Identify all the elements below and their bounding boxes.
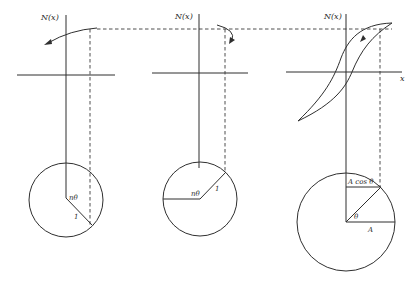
panel-3-axis-label: N(x) xyxy=(323,12,342,21)
panel-2-axis-label: N(x) xyxy=(174,12,193,21)
panel-1-axis-label: N(x) xyxy=(40,13,59,22)
panel-3-arrowhead-icon xyxy=(360,35,366,42)
panel-3-radius-label: A xyxy=(367,226,373,234)
panel-1-arrowhead-icon xyxy=(44,39,52,45)
panel-2-angle-label: nθ xyxy=(191,190,201,198)
panel-1: N(x) nθ 1 xyxy=(17,13,115,237)
panel-3: N(x) x A cos θ θ A xyxy=(286,12,405,271)
panel-2-arrowhead-icon xyxy=(229,37,235,44)
panel-1-angle-label: nθ xyxy=(69,194,79,202)
panel-2-radius-angled xyxy=(200,172,226,199)
panel-1-radius xyxy=(66,198,92,225)
panel-3-angle-label: θ xyxy=(354,213,359,221)
diagram-figure: N(x) nθ 1 N(x) nθ 1 N(x) x xyxy=(0,0,419,283)
panel-3-x-axis-label: x xyxy=(400,74,405,83)
panel-3-radius-angled xyxy=(346,187,381,222)
panel-2-radius-label: 1 xyxy=(215,185,219,193)
panel-3-projection-label: A cos θ xyxy=(347,178,374,186)
panel-2: N(x) nθ 1 xyxy=(152,12,248,236)
panel-1-radius-label: 1 xyxy=(74,213,78,221)
